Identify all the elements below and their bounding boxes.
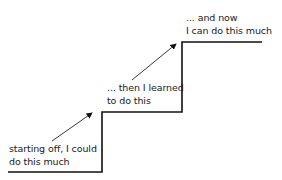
step-2-label: ... then I learned to do this (107, 81, 184, 107)
step-1-line-2: do this much (9, 155, 97, 168)
step-2-line-1: ... then I learned (107, 81, 184, 94)
staircase-diagram: starting off, I could do this much ... t… (0, 0, 282, 180)
step-1-label: starting off, I could do this much (9, 142, 97, 168)
arrow-1 (52, 113, 92, 141)
step-3-line-2: I can do this much (186, 24, 272, 37)
arrow-2 (132, 44, 176, 80)
step-3-line-1: ... and now (186, 11, 272, 24)
step-3-label: ... and now I can do this much (186, 11, 272, 37)
step-2-line-2: to do this (107, 94, 184, 107)
step-1-line-1: starting off, I could (9, 142, 97, 155)
